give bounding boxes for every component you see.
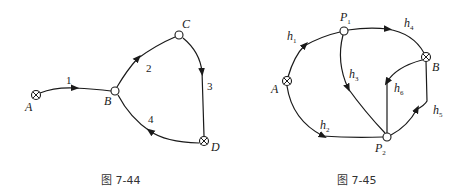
diagram-canvas: 1 2 3 4 A B [0, 0, 466, 195]
node-label-C: C [182, 17, 191, 31]
node-label-A: A [24, 100, 33, 114]
edge-h3: h3 [340, 35, 385, 133]
edge-label-1: 1 [66, 74, 72, 86]
edge-label-4: 4 [148, 113, 154, 125]
node-label-B: B [104, 94, 112, 108]
node-D: D [200, 137, 221, 155]
edge-label-h4: h4 [404, 16, 414, 32]
node-label-B: B [432, 60, 440, 74]
node-B: B [422, 53, 441, 75]
node-label-P1: P1 [339, 10, 351, 26]
edge-label-3: 3 [207, 80, 213, 92]
node-label-D: D [210, 140, 220, 154]
node-A: A [24, 91, 41, 115]
edge-h1: h1 [287, 29, 340, 77]
edge-4: 4 [118, 95, 199, 143]
edge-h4: h4 [348, 16, 424, 53]
figure-caption: 图 7-45 [337, 174, 376, 187]
node-P1: P1 [339, 10, 351, 35]
edge-h2: h2 [287, 86, 383, 137]
edge-label-h1: h1 [287, 29, 297, 45]
edge-label-2: 2 [146, 62, 152, 74]
edge-label-h3: h3 [349, 67, 359, 83]
edge-h6: h6 [387, 60, 422, 133]
node-label-P2: P2 [374, 141, 386, 157]
figure-caption: 图 7-44 [101, 174, 140, 187]
figure-7-45: h1 h2 h3 h4 h5 h6 [270, 10, 443, 187]
node-label-A: A [270, 82, 279, 96]
edge-label-h2: h2 [320, 118, 330, 134]
edge-1: 1 [40, 74, 111, 93]
edge-label-h6: h6 [394, 81, 404, 97]
node-C: C [175, 17, 191, 39]
edge-3: 3 [183, 38, 213, 136]
edge-2: 2 [117, 37, 175, 87]
figure-7-44: 1 2 3 4 A B [24, 17, 220, 187]
edge-label-h5: h5 [433, 103, 443, 119]
